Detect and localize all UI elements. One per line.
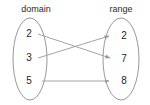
mapping-diagram-canvas: domain 2 3 5 range 2 7 8: [0, 0, 150, 105]
domain-set-label: domain: [21, 4, 51, 14]
range-element-0: 2: [121, 30, 127, 41]
mapping-diagram-svg: domain 2 3 5 range 2 7 8: [0, 0, 150, 105]
range-element-2: 8: [121, 75, 127, 86]
domain-element-2: 5: [26, 75, 32, 86]
domain-element-1: 3: [26, 52, 32, 63]
domain-element-0: 2: [26, 28, 32, 39]
range-set-label: range: [109, 4, 132, 14]
mapping-arrow-3-to-2: [38, 36, 109, 58]
range-element-1: 7: [121, 53, 127, 64]
